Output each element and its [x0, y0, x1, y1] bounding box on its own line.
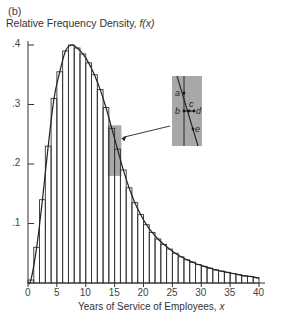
histogram-bar	[167, 249, 173, 283]
histogram-bar	[242, 276, 248, 283]
x-tick-label: 10	[80, 287, 91, 298]
histogram-bar	[68, 45, 74, 283]
histogram-bar	[144, 225, 150, 283]
histogram-bar	[120, 170, 126, 283]
histogram-bar	[57, 72, 63, 283]
x-tick-label: 5	[54, 287, 60, 298]
histogram-bars	[28, 45, 259, 283]
histogram-bar	[155, 239, 161, 283]
histogram-bar	[161, 244, 167, 283]
x-tick-label: 15	[109, 287, 120, 298]
histogram-bar	[230, 273, 236, 283]
y-tick-label: .3	[12, 98, 20, 109]
histogram-bar	[224, 272, 230, 283]
x-tick-label: 40	[253, 287, 264, 298]
inset-point-label: c	[189, 99, 194, 109]
histogram-bar	[207, 268, 213, 283]
histogram-bar	[51, 99, 57, 283]
histogram-bar	[97, 90, 103, 283]
y-tick-label: .2	[12, 157, 20, 168]
histogram-bar	[172, 253, 178, 283]
histogram-bar	[195, 265, 201, 283]
y-tick-label: .4	[12, 38, 20, 49]
histogram-bar	[132, 203, 138, 283]
inset-point-label: b	[175, 106, 180, 116]
histogram-bar	[34, 247, 40, 283]
histogram-bar	[92, 75, 98, 283]
histogram-bar	[86, 63, 92, 283]
histogram-bar	[190, 262, 196, 283]
histogram-bar	[178, 257, 184, 283]
histogram-bar	[80, 54, 86, 283]
x-tick-label: 35	[224, 287, 235, 298]
histogram-bar	[201, 266, 207, 283]
inset-point-label: e	[195, 124, 200, 134]
histogram-bar	[138, 215, 144, 283]
histogram-chart: abcde	[0, 0, 282, 330]
axes	[28, 41, 265, 287]
histogram-bar	[126, 188, 132, 283]
inset-magnifier: abcde	[121, 76, 202, 146]
x-tick-label: 25	[166, 287, 177, 298]
histogram-bar	[63, 51, 69, 283]
x-tick-label: 0	[25, 287, 31, 298]
histogram-bar	[236, 275, 242, 283]
histogram-bar	[213, 270, 219, 283]
histogram-bar	[184, 260, 190, 283]
inset-point-label: a	[175, 88, 180, 98]
histogram-bar	[149, 232, 155, 283]
x-tick-label: 30	[195, 287, 206, 298]
y-tick-label: .1	[12, 217, 20, 228]
histogram-bar	[74, 48, 80, 283]
histogram-bar	[247, 276, 253, 283]
x-tick-label: 20	[138, 287, 149, 298]
histogram-bar	[219, 271, 225, 283]
